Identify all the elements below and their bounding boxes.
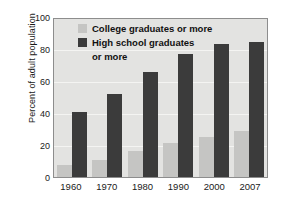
y-tick-100: 100	[24, 14, 50, 23]
bar-college-2007	[234, 131, 249, 177]
bar-highschool-1970	[107, 94, 122, 177]
bar-college-1980	[128, 151, 143, 177]
x-tick-2007: 2007	[233, 181, 267, 192]
bar-college-2000	[199, 137, 214, 177]
x-tick-1990: 1990	[161, 181, 195, 192]
bar-college-1970	[92, 160, 107, 177]
bar-highschool-2000	[214, 44, 229, 177]
y-tick-80: 80	[24, 46, 50, 55]
bar-highschool-1990	[178, 54, 193, 177]
y-tick-40: 40	[24, 110, 50, 119]
legend-label-highschool-line1: High school graduates	[92, 37, 194, 48]
x-tick-1960: 1960	[54, 181, 88, 192]
y-tick-60: 60	[24, 78, 50, 87]
plot-area: College graduates or more High school gr…	[53, 18, 268, 178]
x-axis-tick-labels: 1960 1970 1980 1990 2000 2007	[53, 181, 268, 192]
bar-college-1990	[163, 143, 178, 177]
x-tick-2000: 2000	[197, 181, 231, 192]
y-tick-20: 20	[24, 142, 50, 151]
bar-highschool-1960	[72, 112, 87, 177]
bar-highschool-1980	[143, 72, 158, 177]
bar-chart-figure: Percent of adult population 100 80 60 40…	[0, 0, 291, 209]
legend: College graduates or more High school gr…	[78, 23, 268, 62]
legend-label-highschool-line2: or more	[92, 51, 268, 62]
legend-swatch-college-icon	[78, 24, 87, 33]
y-tick-0: 0	[24, 174, 50, 183]
x-tick-1970: 1970	[90, 181, 124, 192]
legend-label-college: College graduates or more	[92, 23, 212, 34]
legend-item-college: College graduates or more	[78, 23, 268, 34]
x-tick-1980: 1980	[126, 181, 160, 192]
legend-swatch-highschool-icon	[78, 38, 87, 47]
y-axis-tick-labels: 100 80 60 40 20 0	[20, 0, 50, 209]
legend-item-highschool: High school graduates	[78, 37, 268, 48]
bar-college-1960	[57, 165, 72, 177]
